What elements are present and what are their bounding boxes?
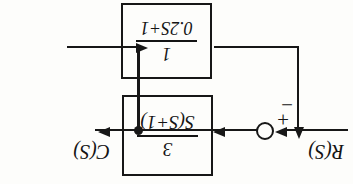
feedback-path-block[interactable]: 1 0.2S+1 xyxy=(121,3,212,79)
input-signal-label: R(S) xyxy=(308,142,344,162)
output-arrowhead xyxy=(98,127,110,137)
forward-block-denominator: S(S+1) xyxy=(135,112,201,133)
feedback-output-wire xyxy=(214,46,299,48)
feedback-return-arrowhead xyxy=(294,127,304,139)
feedback-block-numerator: 1 xyxy=(134,44,199,64)
feedback-block-fraction: 1 0.2S+1 xyxy=(134,19,199,64)
error-arrowhead xyxy=(213,127,225,137)
minus-sign: − xyxy=(281,94,293,115)
forward-path-block[interactable]: 3 S(S+1) xyxy=(122,95,213,176)
feedback-block-fraction-bar xyxy=(136,41,197,43)
feedback-return-wire xyxy=(297,47,299,128)
block-diagram-canvas: 3 S(S+1) 1 0.2S+1 + − R(S) C(S) xyxy=(0,0,353,184)
output-signal-label: C(S) xyxy=(73,142,110,162)
forward-block-fraction-bar xyxy=(137,135,199,137)
summing-junction[interactable] xyxy=(256,122,274,140)
forward-block-numerator: 3 xyxy=(135,138,201,159)
rotated-figure-group: 3 S(S+1) 1 0.2S+1 + − R(S) C(S) xyxy=(0,0,353,184)
forward-block-fraction: 3 S(S+1) xyxy=(135,112,201,159)
feedback-block-denominator: 0.2S+1 xyxy=(134,19,199,39)
